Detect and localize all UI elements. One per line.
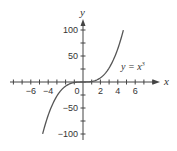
equation-main: y = x — [120, 61, 142, 72]
x-tick-label: 2 — [98, 86, 103, 96]
x-tick-label: 6 — [133, 86, 138, 96]
x-tick-label: 0 — [74, 86, 79, 96]
x-tick-label: −4 — [43, 86, 53, 96]
equation-label: y = x3 — [120, 61, 145, 72]
y-axis-label: y — [79, 6, 85, 18]
y-tick-label: 50 — [68, 51, 78, 61]
x-tick-label: −6 — [26, 86, 36, 96]
x-axis-label: x — [163, 75, 169, 87]
y-tick-label: 100 — [63, 25, 78, 35]
y-tick-label: −100 — [58, 129, 78, 139]
axes: −6−40246 10050−50−100 x y — [10, 6, 169, 140]
x-tick-label: 4 — [115, 86, 120, 96]
y-axis-arrow-icon — [81, 19, 86, 26]
y-tick-label: −50 — [63, 103, 78, 113]
equation-exponent: 3 — [141, 61, 145, 67]
x-axis-arrow-icon — [153, 80, 160, 85]
cubic-function-chart: −6−40246 10050−50−100 x y y = x3 — [0, 0, 177, 151]
